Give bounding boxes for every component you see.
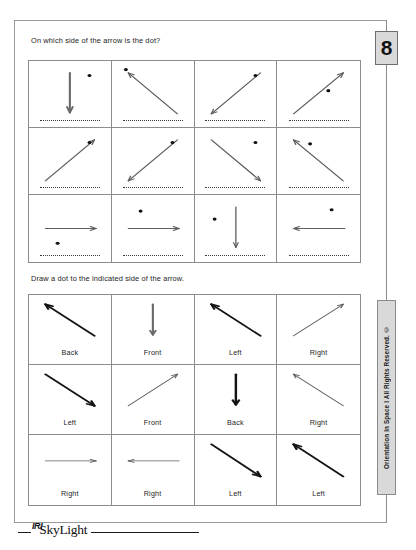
direction-label: Back [29, 348, 111, 357]
prompt-draw: Draw a dot to the indicated side of the … [31, 274, 184, 283]
identify-cell[interactable] [112, 128, 195, 195]
draw-cell[interactable]: Left [277, 435, 360, 505]
arrow-icon [195, 365, 277, 416]
answer-line[interactable] [205, 255, 265, 256]
identify-cell[interactable] [29, 195, 112, 262]
arrow-icon [195, 435, 277, 487]
answer-line[interactable] [40, 187, 100, 188]
arrow-icon [29, 435, 111, 487]
draw-grid: BackFrontLeftRightLeftFrontBackRightRigh… [28, 294, 361, 506]
direction-label: Right [29, 489, 111, 498]
answer-line[interactable] [123, 187, 183, 188]
arrow-icon [195, 295, 277, 346]
arrow-icon [277, 295, 360, 346]
identify-cell[interactable] [195, 128, 278, 195]
dot-marker [112, 61, 194, 127]
direction-label: Left [29, 418, 111, 427]
dot-marker [29, 128, 111, 194]
identify-cell[interactable] [195, 195, 278, 262]
answer-line[interactable] [40, 120, 100, 121]
arrow-icon [29, 365, 111, 416]
direction-label: Left [195, 348, 277, 357]
dot-marker [277, 128, 360, 194]
dot-marker [195, 128, 277, 194]
identify-cell[interactable] [112, 61, 195, 128]
arrow-icon [277, 435, 360, 487]
identify-cell[interactable] [29, 128, 112, 195]
draw-cell[interactable]: Left [195, 295, 278, 365]
draw-cell[interactable]: Right [29, 435, 112, 505]
dot-marker [277, 61, 360, 127]
arrow-icon [112, 295, 194, 346]
dot-marker [29, 195, 111, 262]
draw-cell[interactable]: Back [195, 365, 278, 435]
identify-cell[interactable] [277, 195, 360, 262]
answer-line[interactable] [289, 255, 349, 256]
identify-cell[interactable] [112, 195, 195, 262]
answer-line[interactable] [205, 120, 265, 121]
draw-cell[interactable]: Left [29, 365, 112, 435]
arrow-icon [29, 295, 111, 346]
answer-line[interactable] [289, 120, 349, 121]
answer-line[interactable] [40, 255, 100, 256]
identify-cell[interactable] [277, 61, 360, 128]
identify-cell[interactable] [195, 61, 278, 128]
draw-cell[interactable]: Right [277, 295, 360, 365]
direction-label: Left [277, 489, 360, 498]
dot-marker [195, 195, 277, 262]
prompt-identify: On which side of the arrow is the dot? [31, 36, 160, 45]
direction-label: Front [112, 348, 194, 357]
identify-cell[interactable] [277, 128, 360, 195]
copyright-sidebar: Orientation In Space I All Rights Reserv… [377, 300, 396, 495]
draw-cell[interactable]: Right [112, 435, 195, 505]
publisher-logo: IRI SkyLight [18, 516, 199, 538]
answer-line[interactable] [123, 120, 183, 121]
dot-marker [112, 128, 194, 194]
direction-label: Right [277, 348, 360, 357]
answer-line[interactable] [205, 187, 265, 188]
identify-cell[interactable] [29, 61, 112, 128]
dot-marker [277, 195, 360, 262]
identify-grid [28, 60, 361, 263]
copyright-sidebar-text: Orientation In Space I All Rights Reserv… [383, 326, 390, 469]
draw-cell[interactable]: Front [112, 365, 195, 435]
draw-cell[interactable]: Right [277, 365, 360, 435]
dot-marker [195, 61, 277, 127]
direction-label: Left [195, 489, 277, 498]
direction-label: Right [277, 418, 360, 427]
direction-label: Right [112, 489, 194, 498]
dot-marker [29, 61, 111, 127]
arrow-icon [112, 365, 194, 416]
arrow-icon [277, 365, 360, 416]
logo-skylight-name: SkyLight [39, 523, 87, 537]
arrow-icon [112, 435, 194, 487]
answer-line[interactable] [289, 187, 349, 188]
draw-cell[interactable]: Left [195, 435, 278, 505]
answer-line[interactable] [123, 255, 183, 256]
draw-cell[interactable]: Front [112, 295, 195, 365]
draw-cell[interactable]: Back [29, 295, 112, 365]
dot-marker [112, 195, 194, 262]
logo-rule-right [91, 532, 199, 533]
page-number-badge: 8 [375, 31, 398, 65]
logo-rule-left [18, 532, 31, 533]
direction-label: Front [112, 418, 194, 427]
direction-label: Back [195, 418, 277, 427]
